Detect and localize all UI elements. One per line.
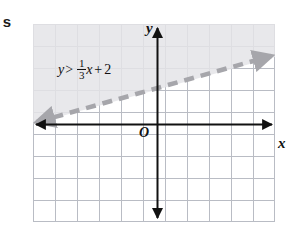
x-axis-label: x [278, 136, 286, 151]
axes [33, 24, 275, 222]
inequality-constant: 2 [104, 63, 111, 77]
inequality-relation: > [65, 63, 73, 77]
figure-canvas: s [0, 0, 298, 231]
margin-artifact-text: s [0, 14, 14, 29]
fraction-denominator: 3 [78, 70, 86, 81]
y-axis-label: y [146, 21, 153, 36]
inequality-plus-sign: + [94, 63, 102, 77]
coordinate-graph: y x O y > 1 3 x + 2 [33, 24, 275, 222]
inequality-annotation: y > 1 3 x + 2 [58, 58, 111, 81]
inequality-lhs: y [58, 63, 64, 77]
inequality-fraction: 1 3 [77, 58, 86, 81]
fraction-numerator: 1 [78, 58, 86, 69]
inequality-variable: x [86, 63, 92, 77]
origin-label: O [139, 126, 149, 140]
